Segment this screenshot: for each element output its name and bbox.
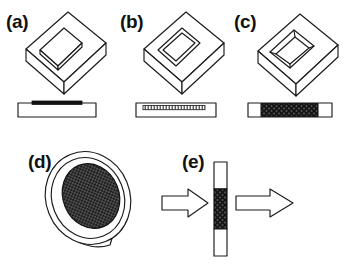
membrane-strip-bottom [214, 229, 227, 256]
panel-c: (c) [234, 6, 348, 126]
section-solid-layer [32, 101, 82, 104]
section-hatched-layer [143, 106, 205, 110]
section-substrate [18, 103, 96, 117]
membrane-strip-active [214, 189, 227, 229]
panel-a: (a) [6, 6, 116, 126]
panel-b-label: (b) [120, 12, 143, 31]
inlet-flow-arrow [162, 189, 208, 217]
membrane-strip-top [214, 162, 227, 189]
panel-b: (b) [120, 6, 235, 126]
figure-canvas: (a) (b) [0, 0, 348, 266]
panel-d: (d) [28, 148, 158, 260]
panel-e-label: (e) [182, 152, 204, 171]
panel-e: (e) [160, 150, 345, 262]
outlet-flow-arrow [236, 189, 293, 217]
panel-d-label: (d) [28, 152, 51, 171]
panel-c-label: (c) [234, 12, 256, 31]
panel-a-label: (a) [6, 12, 28, 31]
section-crosshatch-band [261, 104, 318, 117]
